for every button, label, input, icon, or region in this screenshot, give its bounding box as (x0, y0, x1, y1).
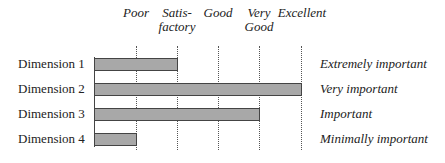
rating-label-very-good: Very Good (239, 6, 279, 34)
bar-dimension-2 (94, 83, 302, 96)
rating-label-satisfactory: Satis- factory (155, 6, 199, 34)
gridline-excellent (301, 46, 302, 150)
dimension-label-2: Dimension 2 (18, 82, 85, 96)
dimension-label-3: Dimension 3 (18, 107, 85, 121)
rating-label-good: Good (199, 6, 237, 20)
bar-dimension-4 (94, 133, 137, 146)
gridline-good (218, 46, 219, 150)
importance-label-1: Extremely important (320, 57, 427, 71)
rating-label-excellent: Excellent (276, 6, 328, 20)
bar-dimension-1 (94, 58, 178, 71)
gridline-very-good (259, 46, 260, 150)
dimension-label-1: Dimension 1 (18, 57, 85, 71)
importance-label-3: Important (320, 107, 372, 121)
importance-label-2: Very important (320, 82, 398, 96)
dimension-label-4: Dimension 4 (18, 132, 85, 146)
rating-label-poor: Poor (118, 6, 154, 20)
bar-dimension-3 (94, 108, 260, 121)
importance-label-4: Minimally important (320, 132, 428, 146)
